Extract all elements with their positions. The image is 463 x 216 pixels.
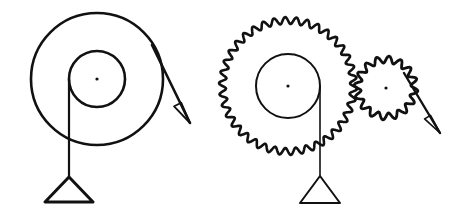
triangular-weight — [45, 177, 93, 202]
triangular-weight — [300, 176, 340, 203]
force-arrow-head — [174, 103, 190, 123]
smooth-pulley-assembly — [31, 13, 190, 202]
mechanism-diagram — [0, 0, 463, 216]
axle-center-dot — [95, 77, 98, 80]
small-gear-axle-dot — [384, 86, 387, 89]
diagram-canvas — [0, 0, 463, 216]
geared-pulley-assembly — [219, 17, 440, 203]
large-gear-axle-dot — [286, 84, 289, 87]
tangent-force-arrow — [152, 45, 190, 123]
force-arrow-head — [425, 115, 440, 133]
